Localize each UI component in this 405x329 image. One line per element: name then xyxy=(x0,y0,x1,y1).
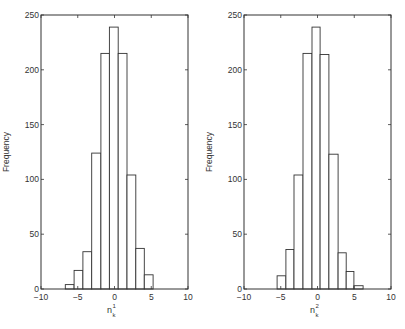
x-tick-label: −5 xyxy=(73,292,83,302)
y-tick-label: 50 xyxy=(233,229,243,239)
histogram-bar xyxy=(136,248,145,289)
y-axis-label: Frequency xyxy=(204,131,214,172)
y-tick-label: 100 xyxy=(25,174,39,184)
histogram-bars xyxy=(277,27,363,289)
histogram-bar xyxy=(118,53,127,289)
x-tick-label: 0 xyxy=(112,292,117,302)
x-axis-label: n2k xyxy=(310,303,320,318)
histogram-bar xyxy=(286,250,294,290)
x-tick-label: 10 xyxy=(386,292,396,302)
y-tick-label: 250 xyxy=(228,10,242,20)
x-tick-label: −5 xyxy=(276,292,286,302)
y-tick-label: 50 xyxy=(30,229,40,239)
x-tick-label: 5 xyxy=(352,292,357,302)
histogram-bar xyxy=(101,53,110,289)
histogram-right-svg: −10−50510050100150200250Frequencyn2k xyxy=(203,0,405,329)
histogram-bar xyxy=(294,175,303,289)
histogram-bar xyxy=(329,154,338,289)
histogram-bar xyxy=(346,272,354,290)
histogram-bar xyxy=(65,285,74,289)
histogram-right: −10−50510050100150200250Frequencyn2k xyxy=(203,0,405,329)
histogram-bar xyxy=(83,252,92,289)
y-axis-label: Frequency xyxy=(1,131,11,172)
x-tick-label: 10 xyxy=(183,292,193,302)
histogram-left: −10−50510050100150200250Frequencyn1k xyxy=(0,0,202,329)
y-tick-label: 0 xyxy=(237,284,242,294)
y-tick-label: 100 xyxy=(228,174,242,184)
histogram-bar xyxy=(109,27,118,289)
y-tick-label: 200 xyxy=(25,65,39,75)
histogram-bar xyxy=(92,153,101,289)
histogram-bars xyxy=(65,27,153,289)
x-axis-label: n1k xyxy=(107,303,117,318)
y-tick-label: 200 xyxy=(228,65,242,75)
histogram-bar xyxy=(320,55,329,290)
x-tick-label: 5 xyxy=(149,292,154,302)
histogram-left-svg: −10−50510050100150200250Frequencyn1k xyxy=(0,0,202,329)
histogram-bar xyxy=(303,53,312,289)
histogram-bar xyxy=(74,270,83,289)
histogram-bar xyxy=(144,275,153,289)
y-tick-label: 150 xyxy=(228,120,242,130)
histogram-bar xyxy=(127,175,136,289)
histogram-bar xyxy=(277,276,286,289)
y-tick-label: 250 xyxy=(25,10,39,20)
y-tick-label: 0 xyxy=(34,284,39,294)
x-tick-label: 0 xyxy=(315,292,320,302)
histogram-bar xyxy=(338,253,346,289)
histogram-bar xyxy=(312,27,320,289)
y-tick-label: 150 xyxy=(25,120,39,130)
